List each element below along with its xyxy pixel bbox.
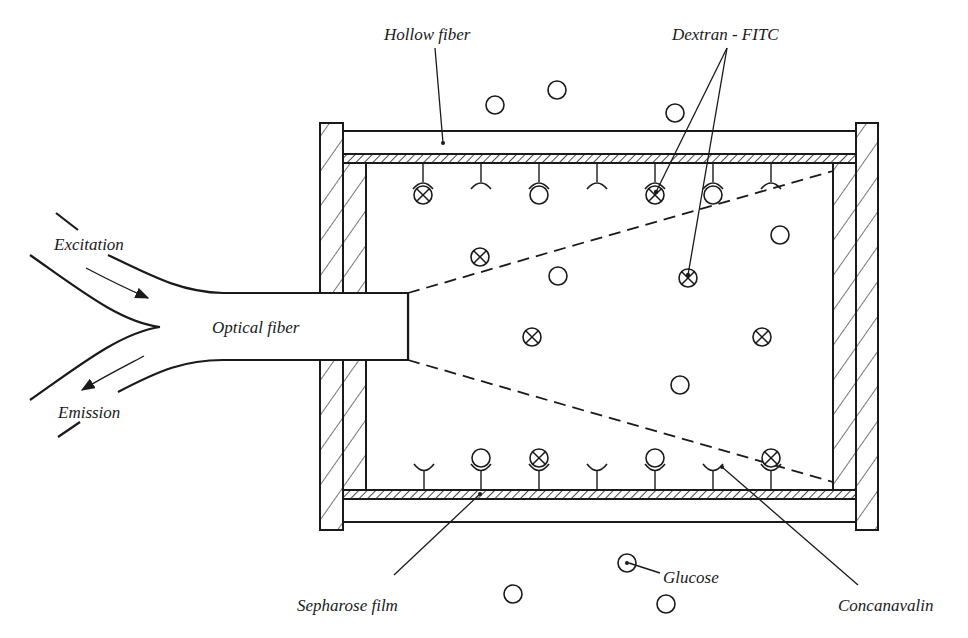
receptor-bound-glucose (645, 449, 665, 490)
right-end-cap (833, 123, 878, 530)
receptor-bound-glucose (471, 449, 491, 490)
sensor-diagram: Hollow fiber Dextran - FITC Excitation E… (0, 0, 968, 638)
glucose-molecule (771, 226, 789, 244)
bottom-receptors (414, 449, 781, 490)
receptor-empty (761, 163, 781, 189)
glucose-molecule (671, 376, 689, 394)
receptor-bound-dextran (413, 163, 433, 204)
receptor-bound-dextran (645, 163, 665, 204)
receptor-bound-dextran (761, 449, 781, 490)
free-molecules-inside (471, 226, 789, 394)
dextran-fitc-molecule (471, 248, 489, 266)
glucose-molecule (548, 81, 566, 99)
receptor-empty (587, 163, 607, 189)
dextran-fitc-molecule (523, 328, 541, 346)
label-sepharose-film: Sepharose film (297, 596, 398, 615)
top-receptors (413, 163, 781, 204)
label-excitation: Excitation (53, 235, 124, 254)
receptor-bound-dextran (529, 449, 549, 490)
dextran-fitc-molecule (753, 328, 771, 346)
diagram-canvas: Hollow fiber Dextran - FITC Excitation E… (0, 0, 968, 638)
receptor-empty (471, 163, 491, 189)
label-hollow-fiber: Hollow fiber (383, 25, 471, 44)
label-glucose: Glucose (663, 568, 719, 587)
receptor-bound-glucose (529, 163, 549, 204)
light-cone (408, 171, 833, 482)
label-optical-fiber: Optical fiber (212, 318, 300, 337)
glucose-molecule (666, 104, 684, 122)
label-dextran-fitc: Dextran - FITC (671, 25, 779, 44)
glucose-molecule (504, 585, 522, 603)
glucose-legend-symbol (618, 554, 660, 573)
receptor-empty (587, 464, 607, 490)
glucose-molecule (657, 595, 675, 613)
receptor-empty (703, 464, 723, 490)
label-emission: Emission (57, 403, 120, 422)
receptor-empty (414, 464, 434, 490)
label-concanavalin: Concanavalin (838, 596, 933, 615)
top-hollow-fiber-wall (343, 131, 856, 163)
glucose-molecule (486, 96, 504, 114)
glucose-molecule (549, 267, 567, 285)
